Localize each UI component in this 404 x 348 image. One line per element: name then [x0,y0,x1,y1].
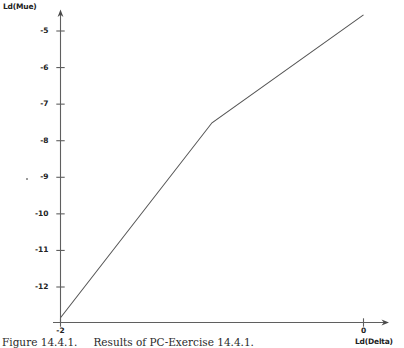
y-axis-tick-label: -5 [23,26,49,35]
y-axis-tick-label: -7 [23,99,49,108]
y-axis-tick-label: -10 [23,209,49,218]
scan-artifact-speck [26,178,28,180]
figure-container: Ld(Mue) Ld(Delta) -5-6-7-8-9-10-11-12 -2… [0,0,404,348]
y-axis-tick-label: -8 [23,136,49,145]
figure-caption: Figure 14.4.1.Results of PC-Exercise 14.… [0,336,404,348]
y-axis-tick-label: -6 [23,63,49,72]
axis-lines [53,10,389,326]
caption-text: Results of PC-Exercise 14.4.1. [77,336,254,348]
y-axis-tick-label: -11 [23,245,49,254]
caption-number: Figure 14.4.1. [0,336,77,348]
x-axis-tick-label: 0 [354,326,374,335]
x-axis-tick-label: -2 [51,326,71,335]
y-axis-tick-label: -12 [23,282,49,291]
plot-area [0,0,404,348]
data-series-line [61,15,364,318]
